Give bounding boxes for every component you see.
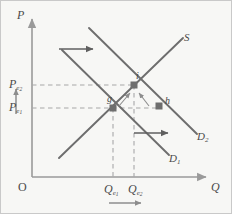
- demand1-curve-label: D1: [169, 153, 180, 166]
- point-label-h: h: [165, 96, 170, 106]
- supply-demand-figure: P Q O Pe2 Pe1 Qe1 Qe2 S D1 D2 g i h: [0, 0, 232, 214]
- point-label-i: i: [136, 71, 139, 81]
- origin-label: O: [18, 181, 27, 193]
- demand2-label-base: D: [197, 130, 205, 142]
- price-tick-pe2-sub2: 2: [19, 86, 22, 92]
- x-axis-label: Q: [211, 181, 220, 193]
- outside-arrow-group: [16, 89, 141, 203]
- demand1-label-sub: 1: [177, 158, 181, 166]
- demand2-curve: [89, 28, 197, 134]
- price-tick-pe1-sub2: 1: [19, 109, 22, 115]
- guide-lines-group: [32, 85, 159, 177]
- point-marker-g: [110, 105, 117, 112]
- adjust-from-h-arrow: [139, 93, 149, 106]
- quantity-tick-qe2-base: Q: [128, 182, 137, 196]
- point-marker-group: [110, 82, 163, 112]
- price-tick-pe1: Pe1: [9, 101, 22, 116]
- demand2-curve-label: D2: [197, 131, 208, 144]
- curve-group: [59, 28, 197, 158]
- quantity-tick-qe2-sub2: 2: [140, 191, 143, 197]
- quantity-tick-qe2: Qe2: [128, 183, 143, 198]
- quantity-tick-qe1-sub2: 1: [116, 191, 119, 197]
- y-axis-label: P: [17, 9, 24, 21]
- point-marker-h: [156, 103, 163, 110]
- supply-curve-label: S: [184, 32, 190, 43]
- point-label-g: g: [107, 94, 112, 104]
- price-tick-pe2: Pe2: [9, 78, 22, 93]
- quantity-tick-qe1: Qe1: [104, 183, 119, 198]
- demand2-label-sub: 2: [205, 136, 209, 144]
- quantity-tick-qe1-base: Q: [104, 182, 113, 196]
- point-marker-i: [131, 82, 138, 89]
- demand1-label-base: D: [169, 152, 177, 164]
